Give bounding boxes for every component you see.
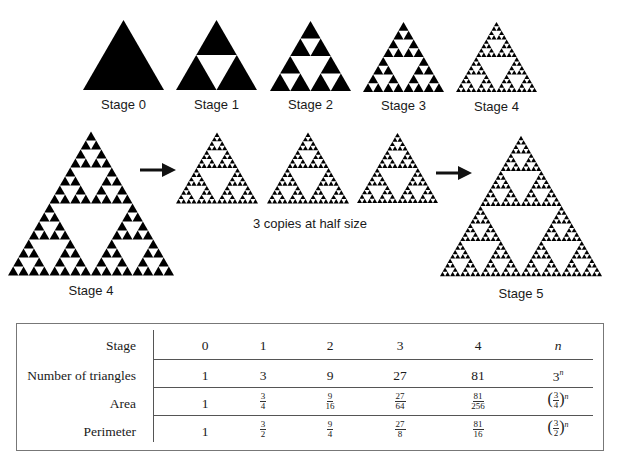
header-stage-label: Stage — [6, 338, 136, 354]
perimeter-value: 94 — [300, 420, 360, 439]
header-value: 1 — [233, 338, 293, 354]
denominator: 16 — [326, 402, 335, 411]
row-separator — [153, 387, 593, 388]
denominator: 4 — [328, 430, 333, 439]
row-label-triangles: Number of triangles — [6, 368, 136, 384]
exponent: n — [559, 368, 563, 377]
arrow-right-icon — [140, 163, 176, 177]
triangles-value: 81 — [448, 368, 508, 384]
triangles-value: 3 — [233, 368, 293, 384]
perimeter-value: 1 — [175, 424, 235, 440]
area-value: 81256 — [448, 392, 508, 411]
denominator: 4 — [554, 401, 559, 410]
triangles-general: 3n — [528, 368, 588, 385]
header-value: 4 — [448, 338, 508, 354]
stage-1-label: Stage 1 — [176, 97, 257, 112]
header-value: 3 — [370, 338, 430, 354]
area-general: (34)n — [528, 390, 588, 410]
perimeter-value: 32 — [233, 420, 293, 439]
sierpinski-stage-4 — [456, 21, 537, 93]
result-stage-label: Stage 5 — [440, 286, 602, 301]
stage-2-label: Stage 2 — [270, 97, 351, 112]
sierpinski-stage-2 — [270, 20, 351, 92]
perimeter-value: 278 — [370, 420, 430, 439]
stage-0-label: Stage 0 — [83, 97, 164, 112]
triangles-value: 9 — [300, 368, 360, 384]
area-value: 916 — [300, 392, 360, 411]
stage-3-label: Stage 3 — [363, 98, 444, 113]
header-value: n — [528, 338, 588, 354]
row-label-perimeter: Perimeter — [6, 424, 136, 440]
row-separator — [153, 359, 593, 360]
denominator: 2 — [554, 429, 559, 438]
area-value: 2764 — [370, 392, 430, 411]
triangles-value: 1 — [175, 368, 235, 384]
row-separator — [153, 415, 593, 416]
denominator: 256 — [471, 402, 485, 411]
perimeter-value: 8116 — [448, 420, 508, 439]
sierpinski-stage-5 — [440, 133, 602, 279]
exponent: n — [565, 392, 569, 401]
exponent: n — [565, 420, 569, 429]
perimeter-general: (32)n — [528, 418, 588, 438]
half-size-copy-2 — [267, 132, 349, 204]
area-value: 1 — [175, 396, 235, 412]
sierpinski-stage-0 — [83, 19, 164, 91]
denominator: 4 — [261, 402, 266, 411]
header-value: 0 — [175, 338, 235, 354]
sierpinski-stage-3 — [363, 21, 444, 93]
denominator: 8 — [398, 430, 403, 439]
half-size-copy-1 — [176, 132, 258, 204]
table-divider — [153, 330, 154, 442]
copies-caption: 3 copies at half size — [220, 216, 400, 231]
source-stage-label: Stage 4 — [8, 283, 174, 298]
half-size-copy-3 — [357, 132, 438, 204]
denominator: 2 — [261, 430, 266, 439]
denominator: 64 — [396, 402, 405, 411]
sierpinski-stage-1 — [176, 19, 257, 91]
area-value: 34 — [233, 392, 293, 411]
denominator: 16 — [474, 430, 483, 439]
triangles-value: 27 — [370, 368, 430, 384]
sierpinski-stage-4-large — [8, 131, 174, 276]
header-value: 2 — [300, 338, 360, 354]
stage-4-label: Stage 4 — [456, 99, 537, 114]
row-label-area: Area — [6, 396, 136, 412]
